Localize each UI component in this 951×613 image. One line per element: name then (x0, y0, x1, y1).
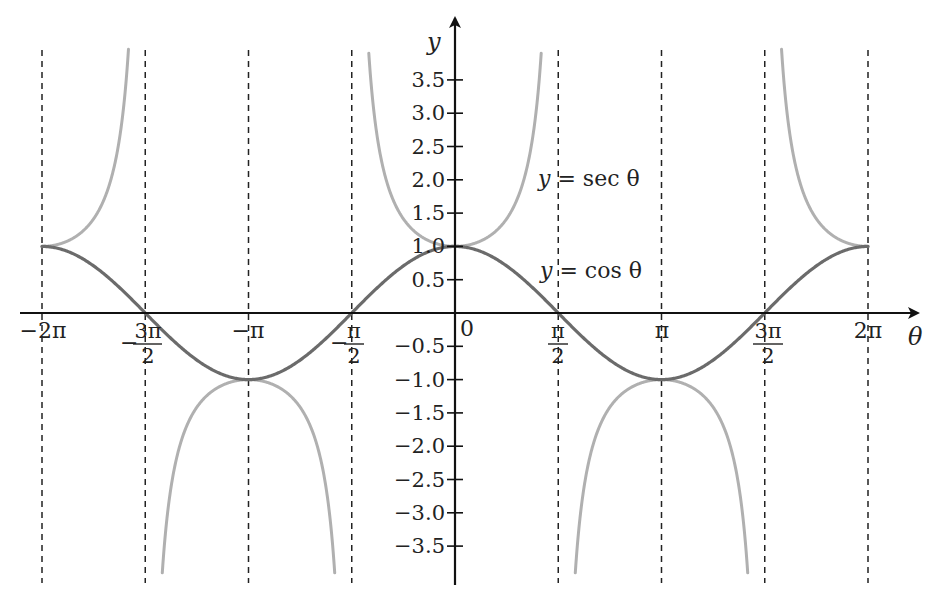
cos-annotation: y = cos θ (539, 258, 642, 283)
x-tick-neg-pi-over-2: − π 2 (330, 319, 364, 368)
sec-annotation: y = sec θ (537, 166, 640, 191)
denominator: 2 (551, 344, 564, 368)
sec-curve-branch-3 (575, 380, 747, 573)
origin-label: 0 (460, 316, 474, 341)
y-axis-label: y (426, 28, 441, 56)
annotation-var: y (539, 258, 553, 283)
numerator: 3π (134, 319, 161, 343)
neg-sign: − (330, 330, 348, 355)
x-axis-label: θ (908, 323, 923, 351)
y-tick-label: 2.0 (412, 168, 445, 192)
trig-graph: 3.53.02.52.01.51.00.5−0.5−1.0−1.5−2.0−2.… (0, 0, 951, 613)
denominator: 2 (347, 344, 360, 368)
x-tick-neg-3pi-over-2: − 3π 2 (120, 319, 162, 368)
x-tick-3pi-over-2: 3π 2 (753, 319, 783, 368)
y-tick-label: −3.0 (394, 501, 445, 525)
annotation-var: y (537, 166, 551, 191)
y-tick-label: 3.0 (412, 101, 445, 125)
annotation-text: = cos θ (552, 258, 642, 283)
y-tick-label: 1.0 (412, 234, 445, 258)
numerator: 3π (754, 319, 781, 343)
sec-curve-branch-1 (162, 380, 334, 573)
x-tick-pi-over-2: π 2 (548, 319, 568, 368)
y-tick-label: −2.5 (394, 468, 445, 492)
y-tick-label: −2.0 (394, 434, 445, 458)
x-tick-neg-2pi: −2π (20, 318, 67, 343)
y-tick-label: 0.5 (412, 268, 445, 292)
x-tick-neg-pi: −π (232, 318, 265, 343)
denominator: 2 (761, 344, 774, 368)
y-tick-label: 1.5 (412, 201, 445, 225)
x-tick-2pi: 2π (854, 318, 882, 343)
chart-container: 3.53.02.52.01.51.00.5−0.5−1.0−1.5−2.0−2.… (0, 0, 951, 613)
svg-text:y = sec θ: y = sec θ (537, 166, 640, 191)
sec-curve-branch-4 (782, 49, 868, 246)
x-tick-pi: π (655, 318, 669, 343)
numerator: π (347, 319, 361, 343)
y-tick-label: 2.5 (412, 135, 445, 159)
annotation-text: = sec θ (550, 166, 639, 191)
numerator: π (551, 319, 565, 343)
y-tick-label: −0.5 (394, 334, 445, 358)
y-tick-label: −1.0 (394, 368, 445, 392)
sec-curve-branch-0 (42, 49, 128, 246)
y-tick-label: −3.5 (394, 534, 445, 558)
svg-text:y = cos θ: y = cos θ (539, 258, 642, 283)
denominator: 2 (141, 344, 154, 368)
y-tick-label: −1.5 (394, 401, 445, 425)
y-tick-label: 3.5 (412, 68, 445, 92)
